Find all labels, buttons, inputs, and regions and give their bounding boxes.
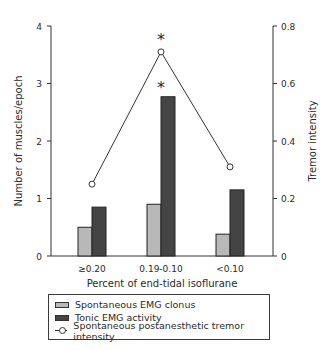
right-tick-label: 0 [281, 252, 287, 262]
x-tick-label: 0.19-0.10 [139, 264, 183, 274]
right-tick-label: 0.2 [281, 194, 295, 204]
significance-asterisk: * [157, 78, 165, 97]
circle-line-marker-icon [55, 327, 67, 335]
legend: Spontaneous EMG clonus Tonic EMG activit… [48, 294, 270, 340]
tonic-bar [161, 97, 175, 256]
legend-label: Spontaneous EMG clonus [75, 299, 195, 310]
left-axis-title: Number of muscles/epoch [13, 76, 24, 207]
clonus-bar [78, 227, 92, 256]
legend-item-tremor: Spontaneous postanesthetic tremor intens… [55, 324, 263, 337]
x-axis-title: Percent of end-tidal isoflurane [87, 278, 238, 289]
tonic-bar [230, 190, 244, 256]
clonus-bar [216, 234, 230, 256]
dark-bar-swatch-icon [55, 315, 69, 321]
tremor-point [158, 49, 164, 55]
x-tick-label: ≥0.20 [78, 264, 106, 274]
left-tick-label: 0 [36, 252, 42, 262]
left-tick-label: 3 [36, 79, 42, 89]
clonus-bar [147, 204, 161, 256]
tonic-bar [92, 207, 106, 256]
left-tick-label: 1 [36, 194, 42, 204]
left-tick-label: 4 [36, 22, 42, 32]
left-tick-label: 2 [36, 137, 42, 147]
tremor-point [227, 164, 233, 170]
bars [78, 97, 244, 256]
right-tick-label: 0.4 [281, 137, 296, 147]
right-axis-title: Tremor intensity [307, 100, 318, 182]
tremor-point [89, 181, 95, 187]
legend-label: Spontaneous postanesthetic tremor intens… [73, 320, 263, 342]
chart: 0123400.20.40.60.8 **≥0.200.19-0.10<0.10… [0, 0, 335, 290]
x-tick-label: <0.10 [216, 264, 244, 274]
legend-item-clonus: Spontaneous EMG clonus [55, 298, 263, 311]
right-tick-label: 0.8 [281, 22, 296, 32]
significance-asterisk: * [157, 30, 165, 49]
light-bar-swatch-icon [55, 302, 69, 308]
right-tick-label: 0.6 [281, 79, 296, 89]
